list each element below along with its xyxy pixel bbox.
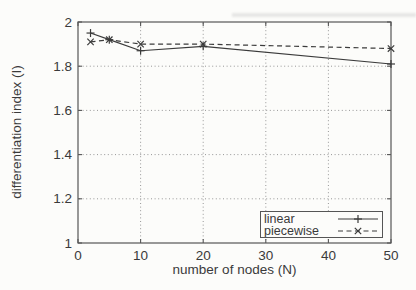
series-line-piecewise: [91, 40, 391, 49]
x-tick-label: 30: [258, 248, 273, 263]
y-tick-label: 1: [64, 236, 72, 251]
y-tick-label: 1.4: [53, 147, 72, 162]
x-tick-label: 40: [321, 248, 336, 263]
y-tick-label: 1.8: [53, 59, 72, 74]
legend-sample-piecewise: [337, 225, 379, 237]
legend-item-piecewise: piecewise: [261, 225, 382, 237]
y-tick-label: 1.6: [53, 103, 72, 118]
legend-box: linear piecewise: [260, 211, 383, 238]
series-line-linear: [91, 33, 391, 64]
x-tick-label: 50: [383, 248, 398, 263]
legend-label-piecewise: piecewise: [264, 225, 337, 237]
plot-frame: [78, 22, 391, 243]
x-tick-label: 0: [74, 248, 82, 263]
x-tick-label: 10: [133, 248, 148, 263]
y-axis-label: differentiation index (I): [9, 65, 24, 198]
y-tick-label: 1.2: [53, 191, 72, 206]
y-tick-label: 2: [64, 15, 72, 30]
legend-item-linear: linear: [261, 213, 382, 225]
plot-area: 0102030405011.21.41.61.82: [0, 0, 416, 290]
legend-sample-linear: [337, 213, 379, 225]
legend-label-linear: linear: [264, 213, 337, 225]
x-axis-label: number of nodes (N): [78, 262, 391, 277]
x-tick-label: 20: [196, 248, 211, 263]
chart-figure: 0102030405011.21.41.61.82 differentiatio…: [0, 0, 416, 290]
